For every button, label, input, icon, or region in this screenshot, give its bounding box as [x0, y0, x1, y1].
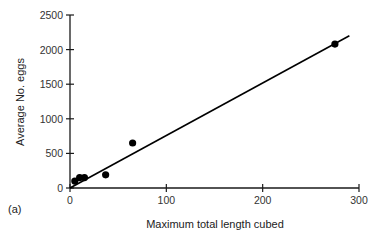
panel-label: (a): [8, 203, 21, 215]
y-tick-label: 1000: [40, 113, 64, 125]
plot-area: 050010001500200025000100200300: [40, 9, 368, 206]
regression-line: [70, 36, 349, 188]
y-tick-label: 2000: [40, 44, 64, 56]
y-tick-label: 500: [45, 147, 63, 159]
x-tick-label: 100: [158, 194, 176, 206]
data-point: [102, 171, 109, 178]
data-point: [129, 139, 136, 146]
x-tick-label: 0: [67, 194, 73, 206]
scatter-chart: 050010001500200025000100200300 Average N…: [0, 0, 387, 241]
y-tick-label: 0: [57, 182, 63, 194]
x-tick-label: 200: [254, 194, 272, 206]
y-tick-label: 1500: [40, 78, 64, 90]
x-axis-title: Maximum total length cubed: [146, 218, 284, 230]
y-axis-title: Average No. eggs: [14, 58, 26, 146]
y-tick-label: 2500: [40, 9, 64, 21]
x-tick-label: 300: [350, 194, 368, 206]
